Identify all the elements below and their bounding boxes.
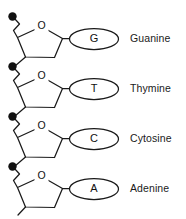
phosphate-dot-thymine: [8, 62, 16, 70]
base-letter-guanine: G: [90, 32, 99, 44]
backbone-down-thymine: [15, 107, 26, 116]
base-letter-adenine: A: [90, 182, 98, 194]
phosphate-sugar-linker-cytosine: [14, 119, 20, 138]
phosphate-dot-guanine: [8, 12, 16, 20]
ring-oxygen-label-thymine: O: [37, 69, 45, 81]
ring-oxygen-label-cytosine: O: [37, 119, 45, 131]
base-name-label-adenine: Adenine: [130, 183, 169, 194]
nucleotide-unit-guanine: O G: [8, 12, 118, 66]
base-letter-thymine: T: [91, 82, 98, 94]
backbone-down-adenine: [18, 207, 26, 215]
backbone-down-guanine: [15, 57, 26, 66]
backbone-down-cytosine: [15, 157, 26, 166]
phosphate-sugar-linker-guanine: [14, 19, 20, 38]
phosphate-sugar-linker-thymine: [14, 69, 20, 88]
base-name-label-guanine: Guanine: [130, 33, 170, 44]
nucleotide-unit-adenine: O A: [8, 162, 118, 215]
nucleotide-unit-cytosine: O C: [8, 112, 118, 166]
ring-oxygen-label-guanine: O: [37, 19, 45, 31]
base-name-label-cytosine: Cytosine: [130, 133, 172, 144]
phosphate-sugar-linker-adenine: [14, 169, 20, 188]
base-name-label-thymine: Thymine: [130, 83, 171, 94]
nucleotide-unit-thymine: O T: [8, 62, 118, 116]
ring-oxygen-label-adenine: O: [37, 169, 45, 181]
phosphate-dot-cytosine: [8, 112, 16, 120]
phosphate-dot-adenine: [8, 162, 16, 170]
dna-nucleotide-diagram: O G O T O: [0, 0, 186, 219]
base-letter-cytosine: C: [90, 132, 98, 144]
